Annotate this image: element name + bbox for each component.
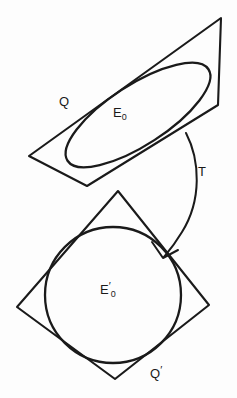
label-upper-conic-base: E [113, 105, 122, 120]
label-upper-quadrilateral: Q [59, 93, 69, 109]
label-upper-quadrilateral-text: Q [59, 94, 69, 109]
label-lower-conic-subscript: 0 [111, 289, 116, 299]
label-lower-quadrilateral: Q′ [150, 365, 162, 381]
label-lower-conic: E′0 [100, 281, 116, 299]
figure-canvas: Q E0 T E′0 Q′ [0, 0, 237, 398]
label-lower-quadrilateral-base: Q [150, 366, 160, 381]
geometry-figure [0, 0, 237, 398]
label-upper-conic: E0 [113, 104, 127, 122]
label-lower-quadrilateral-prime: ′ [160, 364, 162, 376]
label-lower-conic-base: E [100, 282, 109, 297]
upper-quadrilateral-shape [29, 18, 221, 186]
label-upper-conic-subscript: 0 [122, 112, 127, 122]
transformation-arrow-curve [164, 133, 197, 257]
label-transformation-text: T [198, 164, 206, 179]
label-transformation: T [198, 163, 206, 179]
